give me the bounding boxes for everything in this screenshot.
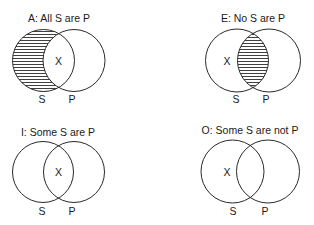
panel-o-label-p: P (261, 205, 268, 217)
panel-a-label-p: P (68, 93, 75, 105)
panel-o-circle-s (201, 140, 264, 203)
panel-e-no-s-are-p: E: No S are P X S P (206, 12, 301, 105)
panel-o-some-s-are-not-p: O: Some S are not P X S P (201, 124, 300, 217)
panel-e-x-mark: X (223, 55, 230, 67)
panel-a-label-s: S (38, 93, 45, 105)
panel-i-some-s-are-p: I: Some S are P X S P (13, 126, 105, 217)
panel-a-all-s-are-p: A: All S are P X S P (0, 0, 157, 112)
panel-e-label-s: S (232, 93, 239, 105)
panel-e-title: E: No S are P (221, 12, 285, 24)
panel-o-x-mark: X (223, 166, 230, 178)
panel-a-title: A: All S are P (28, 12, 90, 24)
panel-o-title: O: Some S are not P (202, 124, 299, 136)
panel-a-x-mark: X (55, 55, 62, 67)
venn-diagrams: A: All S are P X S P E: No S are P X S P… (0, 0, 314, 225)
panel-i-x-mark: X (55, 166, 62, 178)
panel-o-circle-p (237, 140, 300, 203)
panel-e-label-p: P (262, 93, 269, 105)
panel-i-title: I: Some S are P (21, 126, 95, 138)
panel-i-label-p: P (68, 205, 75, 217)
panel-i-label-s: S (38, 205, 45, 217)
panel-o-label-s: S (229, 205, 236, 217)
